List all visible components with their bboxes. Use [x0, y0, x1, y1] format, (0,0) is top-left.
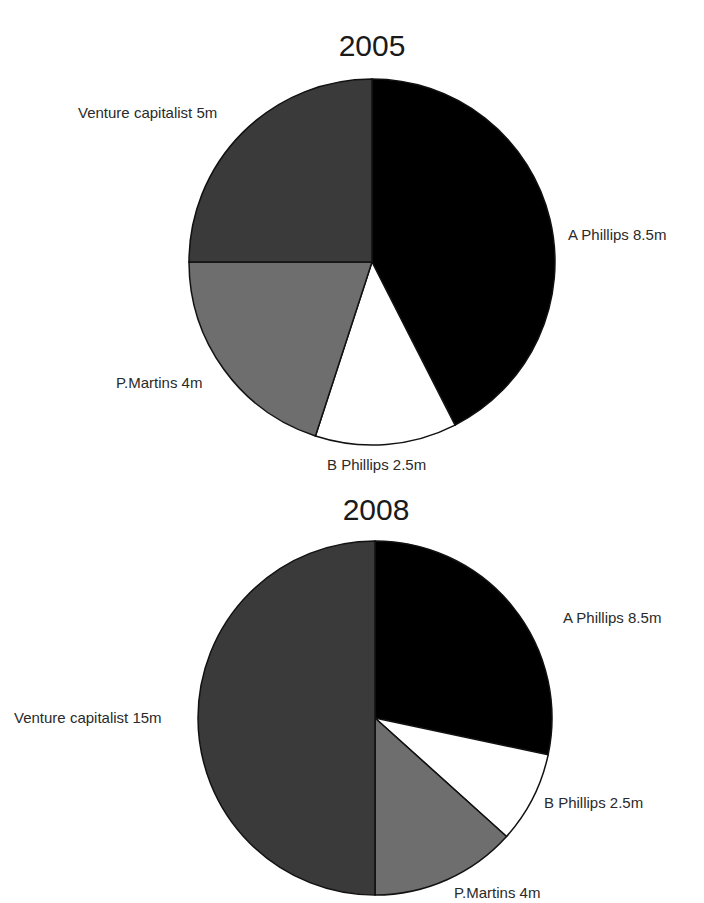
- pie-chart-2005: 2005 Venture capitalist 5m A Phillips 8.…: [78, 29, 666, 473]
- chart-title-2005: 2005: [339, 29, 406, 62]
- chart-title-2008: 2008: [343, 493, 410, 526]
- pie-slice-venture-capitalist: [198, 541, 375, 895]
- slice-label-p-martins-2005: P.Martins 4m: [116, 374, 202, 391]
- pie-2005-slices: [189, 79, 555, 445]
- slice-label-p-martins-2008: P.Martins 4m: [454, 884, 540, 901]
- pie-slice-a-phillips: [375, 541, 552, 755]
- slice-label-venture-capitalist-2005: Venture capitalist 5m: [78, 104, 217, 121]
- pie-charts-figure: 2005 Venture capitalist 5m A Phillips 8.…: [0, 0, 704, 903]
- slice-label-a-phillips-2008: A Phillips 8.5m: [563, 609, 661, 626]
- pie-2008-slices: [198, 541, 552, 895]
- slice-label-venture-capitalist-2008: Venture capitalist 15m: [14, 709, 162, 726]
- slice-label-b-phillips-2008: B Phillips 2.5m: [544, 794, 643, 811]
- slice-label-b-phillips-2005: B Phillips 2.5m: [327, 456, 426, 473]
- pie-chart-2008: 2008 A Phillips 8.5m Venture capitalist …: [14, 493, 661, 901]
- slice-label-a-phillips-2005: A Phillips 8.5m: [568, 226, 666, 243]
